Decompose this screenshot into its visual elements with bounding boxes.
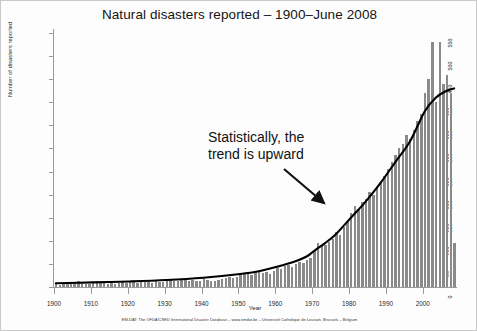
x-tick [312,288,313,294]
x-tick [275,288,276,294]
annotation-arrow-icon [196,161,346,221]
y-axis-title: Number of disasters reported [7,0,13,97]
x-tick [349,288,350,294]
annotation-text: Statistically, the trend is upward [208,129,368,163]
source-credit: EM-DAT: The OFDA/CRED International Disa… [1,317,477,322]
chart-figure: Natural disasters reported – 1900–June 2… [0,0,477,331]
bar [452,243,455,287]
x-tick [423,288,424,294]
x-tick [202,288,203,294]
x-axis-title: Year [53,304,457,311]
page-title: Natural disasters reported – 1900–June 2… [1,7,477,22]
x-tick [54,288,55,294]
x-axis-line [53,287,457,288]
x-tick [91,288,92,294]
x-tick [386,288,387,294]
annotation-line-1: Statistically, the [208,129,368,146]
x-tick [238,288,239,294]
x-tick [165,288,166,294]
x-tick [128,288,129,294]
